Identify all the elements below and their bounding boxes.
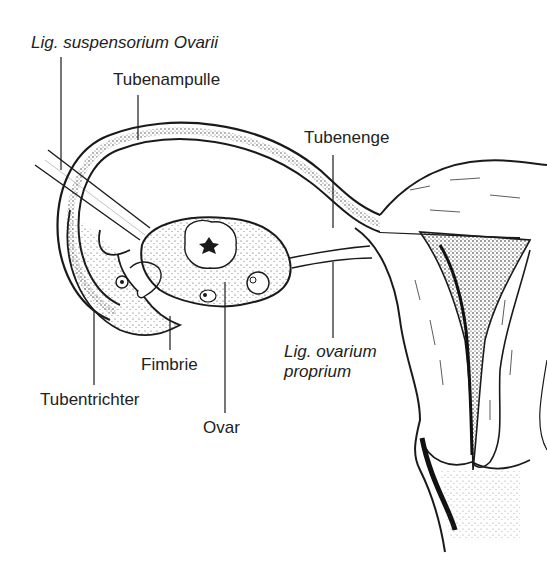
lig-ovarium-proprium-band bbox=[290, 246, 372, 268]
label-lig-ovarium-line2: proprium bbox=[284, 362, 351, 381]
lig-suspensorium-band bbox=[35, 150, 150, 240]
label-tubenenge: Tubenenge bbox=[304, 128, 389, 147]
label-ovar: Ovar bbox=[203, 418, 240, 437]
uterus bbox=[355, 160, 547, 552]
ovary bbox=[141, 217, 290, 306]
label-lig-ovarium-line1: Lig. ovarium bbox=[284, 342, 377, 361]
label-tubentrichter: Tubentrichter bbox=[40, 390, 140, 409]
anatomy-diagram: Lig. suspensorium Ovarii Tubenampulle Tu… bbox=[0, 0, 547, 582]
label-lig-suspensorium-ovarii: Lig. suspensorium Ovarii bbox=[31, 33, 218, 52]
illustration bbox=[0, 0, 547, 582]
label-fimbrie: Fimbrie bbox=[141, 355, 198, 374]
label-tubenampulle: Tubenampulle bbox=[113, 70, 220, 89]
